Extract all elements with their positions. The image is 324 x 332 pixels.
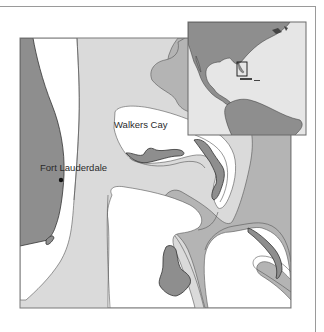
label-walkers-cay: Walkers Cay	[114, 119, 168, 130]
main-map: Walkers Cay Fort Lauderdale	[0, 0, 324, 332]
label-fort-lauderdale: Fort Lauderdale	[40, 162, 107, 173]
inset-map	[188, 22, 306, 144]
fort-lauderdale-marker	[59, 178, 63, 182]
